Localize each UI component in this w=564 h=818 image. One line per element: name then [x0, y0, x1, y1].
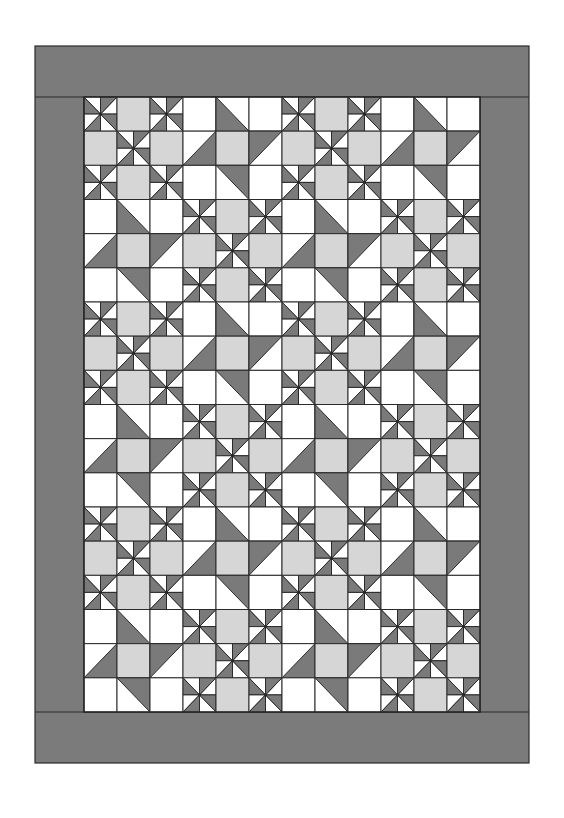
light-square [414, 405, 447, 439]
pinwheel-center [231, 454, 234, 457]
white-square [381, 302, 414, 336]
pinwheel-center [132, 557, 135, 560]
pinwheel-center [297, 386, 300, 389]
pinwheel-center [462, 283, 465, 286]
light-square [117, 302, 150, 336]
light-square [216, 473, 249, 507]
light-square [216, 610, 249, 644]
white-square [84, 200, 117, 234]
light-square [447, 644, 480, 678]
pinwheel-block [282, 507, 381, 610]
pinwheel-center [396, 625, 399, 628]
pinwheel-center [198, 488, 201, 491]
pinwheel-block [381, 610, 480, 713]
pinwheel-center [429, 454, 432, 457]
pinwheel-center [363, 591, 366, 594]
pinwheel-block [84, 302, 183, 405]
white-square [447, 370, 480, 404]
white-square [183, 97, 216, 131]
white-square [282, 678, 315, 712]
pinwheel-center [396, 693, 399, 696]
white-square [282, 610, 315, 644]
light-square [315, 507, 348, 541]
light-square [117, 644, 150, 678]
light-square [282, 336, 315, 370]
pinwheel-center [99, 112, 102, 115]
light-square [315, 302, 348, 336]
pinwheel-center [198, 420, 201, 423]
star-block [381, 507, 480, 610]
white-square [249, 507, 282, 541]
pinwheel-center [330, 147, 333, 150]
light-square [216, 678, 249, 712]
pinwheel-center [462, 488, 465, 491]
pinwheel-center [396, 488, 399, 491]
pinwheel-block [183, 610, 282, 713]
white-square [150, 268, 183, 302]
white-square [348, 610, 381, 644]
pinwheel-center [231, 249, 234, 252]
pinwheel-block [282, 97, 381, 200]
light-square [216, 336, 249, 370]
white-square [447, 165, 480, 199]
white-square [84, 473, 117, 507]
white-square [249, 165, 282, 199]
star-block [84, 405, 183, 508]
white-square [249, 370, 282, 404]
white-square [282, 473, 315, 507]
white-square [381, 370, 414, 404]
pinwheel-center [363, 181, 366, 184]
white-square [348, 268, 381, 302]
white-square [183, 302, 216, 336]
pinwheel-center [198, 693, 201, 696]
light-square [315, 644, 348, 678]
light-square [249, 644, 282, 678]
light-square [117, 165, 150, 199]
light-square [381, 234, 414, 268]
pinwheel-center [264, 283, 267, 286]
light-square [348, 541, 381, 575]
quilt-diagram [0, 0, 564, 818]
white-square [348, 405, 381, 439]
pinwheel-center [297, 181, 300, 184]
light-square [315, 165, 348, 199]
star-block [282, 405, 381, 508]
pinwheel-block [183, 405, 282, 508]
pinwheel-center [429, 249, 432, 252]
white-square [150, 405, 183, 439]
light-square [216, 541, 249, 575]
white-square [282, 268, 315, 302]
pinwheel-center [363, 317, 366, 320]
light-square [150, 336, 183, 370]
light-square [216, 405, 249, 439]
light-square [414, 268, 447, 302]
light-square [150, 541, 183, 575]
light-square [414, 541, 447, 575]
light-square [183, 644, 216, 678]
pinwheel-center [462, 625, 465, 628]
white-square [348, 200, 381, 234]
star-block [381, 302, 480, 405]
pinwheel-center [198, 283, 201, 286]
pinwheel-center [429, 659, 432, 662]
light-square [414, 678, 447, 712]
white-square [381, 97, 414, 131]
light-square [117, 370, 150, 404]
light-square [348, 336, 381, 370]
light-square [249, 439, 282, 473]
star-block [183, 507, 282, 610]
pinwheel-center [165, 181, 168, 184]
white-square [84, 405, 117, 439]
white-square [183, 370, 216, 404]
pinwheel-center [297, 591, 300, 594]
white-square [447, 575, 480, 609]
white-square [84, 610, 117, 644]
white-square [84, 268, 117, 302]
star-block [282, 610, 381, 713]
light-square [249, 234, 282, 268]
light-square [117, 575, 150, 609]
pinwheel-block [381, 405, 480, 508]
white-square [381, 575, 414, 609]
white-square [447, 302, 480, 336]
pinwheel-center [363, 386, 366, 389]
